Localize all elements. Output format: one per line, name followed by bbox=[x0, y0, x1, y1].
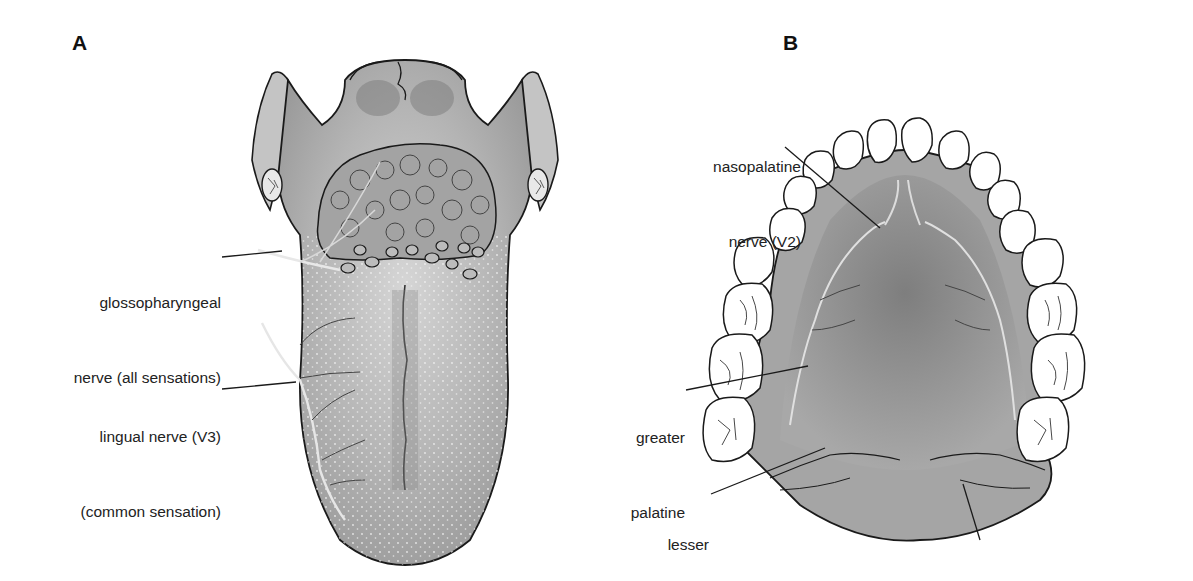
tongue-illustration bbox=[252, 60, 558, 565]
leader-line-lingual bbox=[222, 382, 296, 389]
label-line: glossopharyngeal bbox=[74, 290, 221, 315]
label-line: lingual nerve (V3) bbox=[81, 424, 221, 449]
label-line: lesser bbox=[637, 532, 709, 557]
label-line: greater bbox=[613, 425, 685, 450]
label-line: chorda tympani (VII) bbox=[81, 574, 221, 581]
label-line: nerve (V2) bbox=[713, 229, 801, 254]
label-line: nasopalatine bbox=[713, 154, 801, 179]
panel-letter-b: B bbox=[783, 31, 798, 55]
label-lesser-palatine-nerve: lesser palatine nerve (V2) bbox=[637, 482, 709, 581]
label-line: (common sensation) bbox=[81, 499, 221, 524]
label-glossopharyngeal-nerve-b: glossopharyngeal nerve (IX) bbox=[906, 544, 1100, 581]
panel-letter-a: A bbox=[72, 31, 87, 55]
label-lingual-nerve: lingual nerve (V3) (common sensation) ch… bbox=[81, 374, 221, 581]
label-nasopalatine-nerve: nasopalatine nerve (V2) bbox=[713, 104, 801, 279]
